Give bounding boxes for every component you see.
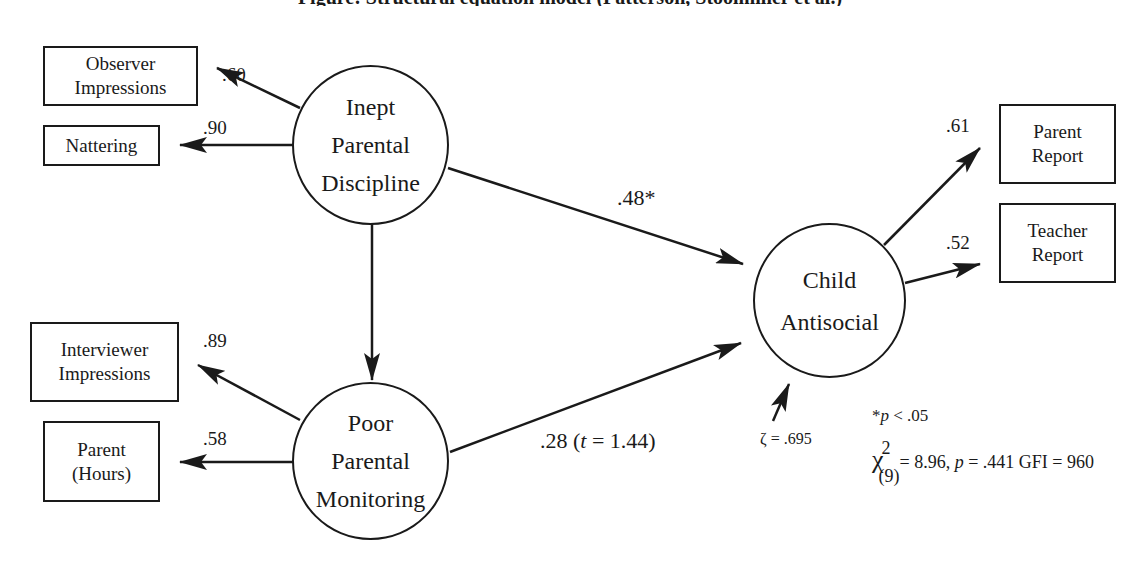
loading-observer: .60 bbox=[222, 64, 246, 86]
loading-parent-report: .61 bbox=[946, 115, 970, 137]
disturbance-label: ζ = .695 bbox=[760, 430, 812, 448]
indicator-nattering: Nattering bbox=[43, 125, 160, 166]
loading-nattering: .90 bbox=[203, 117, 227, 139]
loading-parent-hours: .58 bbox=[203, 428, 227, 450]
significance-note: *p < .05 bbox=[872, 406, 928, 426]
chi-square-fit: χ2(9)= 8.96, p = .441 GFI = 960 bbox=[872, 445, 1094, 475]
indicator-teacher-report: Teacher Report bbox=[999, 203, 1116, 283]
arrow-disturbance bbox=[773, 384, 789, 421]
arrow-ppm-interviewer bbox=[198, 365, 300, 420]
loading-interviewer: .89 bbox=[203, 330, 227, 352]
indicator-observer-impressions: Observer Impressions bbox=[43, 46, 198, 106]
loading-teacher-report: .52 bbox=[946, 232, 970, 254]
latent-inept-parental-discipline: Inept Parental Discipline bbox=[292, 65, 449, 225]
path-coef-ipd-ca: .48* bbox=[617, 185, 656, 211]
indicator-parent-hours: Parent (Hours) bbox=[43, 421, 160, 502]
indicator-parent-report: Parent Report bbox=[999, 104, 1116, 184]
sem-path-diagram: Figure: Structural equation model (Patte… bbox=[0, 0, 1140, 563]
latent-poor-parental-monitoring: Poor Parental Monitoring bbox=[292, 382, 449, 540]
arrow-ca-teacher-report bbox=[905, 264, 980, 283]
latent-child-antisocial: Child Antisocial bbox=[753, 223, 906, 378]
arrow-ca-parent-report bbox=[884, 148, 980, 245]
path-coef-ppm-ca: .28 (t = 1.44) bbox=[540, 428, 656, 454]
indicator-interviewer-impressions: Interviewer Impressions bbox=[30, 322, 179, 402]
arrow-ipd-ca bbox=[448, 168, 743, 264]
